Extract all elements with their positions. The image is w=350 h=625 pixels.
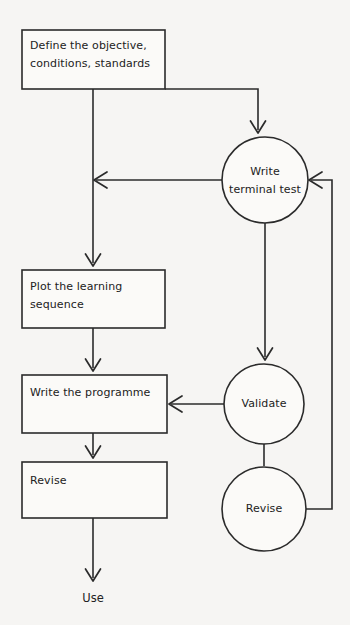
edge-validate-to-write-programme xyxy=(169,396,224,412)
node-plot-sequence-label-line1: Plot the learning xyxy=(30,280,122,293)
node-write-terminal-test-label-line2: terminal test xyxy=(229,183,301,196)
node-use: Use xyxy=(82,591,103,605)
node-validate[interactable]: Validate xyxy=(224,364,304,444)
node-write-programme-label: Write the programme xyxy=(30,386,151,399)
edge-write-terminal-test-to-trunk xyxy=(94,172,222,188)
node-define-objective-label-line1: Define the objective, xyxy=(30,39,147,52)
flowchart-svg: Define the objective, conditions, standa… xyxy=(0,0,350,625)
node-write-programme[interactable]: Write the programme xyxy=(22,375,167,433)
edge-define-to-write-terminal-test xyxy=(165,89,266,133)
node-write-terminal-test[interactable]: Write terminal test xyxy=(222,137,308,223)
node-define-objective[interactable]: Define the objective, conditions, standa… xyxy=(22,30,165,89)
edge-revise-box-to-use xyxy=(86,518,101,581)
node-use-label: Use xyxy=(82,591,103,605)
node-write-programme-shape xyxy=(22,375,167,433)
node-revise-box[interactable]: Revise xyxy=(22,462,167,518)
node-validate-label: Validate xyxy=(241,397,286,410)
edge-write-programme-to-revise-box xyxy=(86,433,101,458)
edge-plot-sequence-to-write-programme xyxy=(86,328,101,371)
node-plot-sequence-label-line2: sequence xyxy=(30,298,84,311)
node-plot-sequence[interactable]: Plot the learning sequence xyxy=(22,270,165,328)
edge-revise-circle-to-write-terminal-test xyxy=(306,172,332,509)
flowchart-canvas: Define the objective, conditions, standa… xyxy=(0,0,350,625)
node-revise-circle[interactable]: Revise xyxy=(222,467,306,551)
node-write-terminal-test-shape xyxy=(222,137,308,223)
node-revise-circle-label: Revise xyxy=(246,502,283,515)
node-revise-box-shape xyxy=(22,462,167,518)
node-write-terminal-test-label-line1: Write xyxy=(250,165,280,178)
node-revise-box-label: Revise xyxy=(30,474,67,487)
edge-write-terminal-test-to-validate xyxy=(258,223,273,360)
node-define-objective-label-line2: conditions, standards xyxy=(30,57,150,70)
